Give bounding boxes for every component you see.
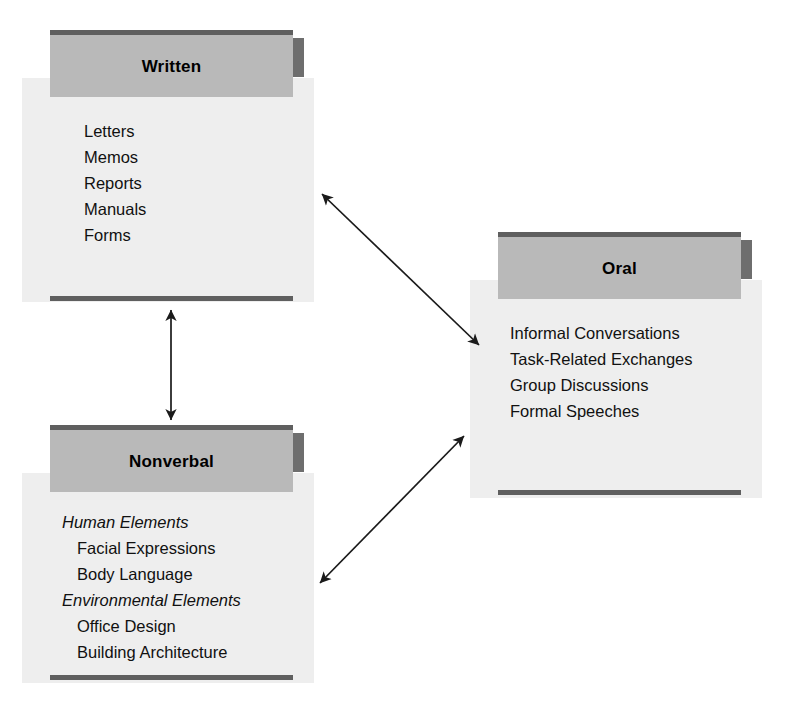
card-oral-title: Oral bbox=[498, 259, 741, 279]
list-item: Facial Expressions bbox=[62, 535, 241, 561]
list-item: Group Discussions bbox=[510, 372, 693, 398]
card-oral-bottom-rule bbox=[498, 490, 741, 495]
card-nonverbal-bottom-rule bbox=[50, 675, 293, 680]
diagram-canvas: Written Letters Memos Reports Manuals Fo… bbox=[0, 0, 796, 716]
list-item: Reports bbox=[84, 170, 146, 196]
list-item: Building Architecture bbox=[62, 639, 241, 665]
card-written[interactable]: Written Letters Memos Reports Manuals Fo… bbox=[22, 30, 314, 302]
card-written-header: Written bbox=[50, 35, 293, 97]
list-item: Memos bbox=[84, 144, 146, 170]
card-written-title: Written bbox=[50, 57, 293, 77]
card-oral-header: Oral bbox=[498, 237, 741, 299]
list-item: Office Design bbox=[62, 613, 241, 639]
list-item: Formal Speeches bbox=[510, 398, 693, 424]
list-item: Informal Conversations bbox=[510, 320, 693, 346]
list-item: Body Language bbox=[62, 561, 241, 587]
list-item: Forms bbox=[84, 222, 146, 248]
connector-nonverbal-oral bbox=[320, 436, 464, 583]
card-written-bottom-rule bbox=[50, 296, 293, 301]
card-oral[interactable]: Oral Informal Conversations Task-Related… bbox=[470, 232, 762, 498]
list-item: Letters bbox=[84, 118, 146, 144]
list-group-label: Human Elements bbox=[62, 509, 241, 535]
card-nonverbal-item-list: Human Elements Facial Expressions Body L… bbox=[62, 509, 241, 665]
card-written-item-list: Letters Memos Reports Manuals Forms bbox=[84, 118, 146, 248]
connector-written-oral bbox=[322, 194, 479, 345]
card-written-corner-tab bbox=[293, 38, 304, 77]
card-nonverbal-title: Nonverbal bbox=[50, 452, 293, 472]
list-item: Task-Related Exchanges bbox=[510, 346, 693, 372]
card-nonverbal-corner-tab bbox=[293, 433, 304, 472]
list-group-label: Environmental Elements bbox=[62, 587, 241, 613]
card-nonverbal[interactable]: Nonverbal Human Elements Facial Expressi… bbox=[22, 425, 314, 683]
card-oral-item-list: Informal Conversations Task-Related Exch… bbox=[510, 320, 693, 424]
card-oral-corner-tab bbox=[741, 240, 752, 279]
card-nonverbal-header: Nonverbal bbox=[50, 430, 293, 492]
card-written-body-panel bbox=[22, 78, 314, 302]
list-item: Manuals bbox=[84, 196, 146, 222]
